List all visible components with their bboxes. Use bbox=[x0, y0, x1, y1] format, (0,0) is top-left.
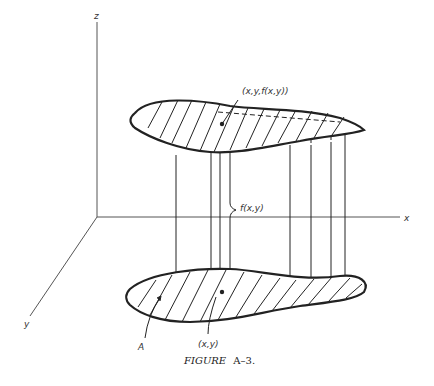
caption-number: A–3. bbox=[232, 355, 255, 366]
figure-caption: FIGURE A–3. bbox=[183, 355, 255, 366]
z-axis-label: z bbox=[93, 11, 99, 21]
surface-point-label: (x,y,f(x,y)) bbox=[242, 86, 288, 96]
region-label: A bbox=[137, 342, 144, 352]
base-point bbox=[220, 290, 224, 294]
figure-diagram: z x y bbox=[0, 0, 434, 386]
y-axis bbox=[30, 217, 97, 316]
lower-surface bbox=[126, 269, 365, 322]
base-point-label: (x,y) bbox=[198, 339, 219, 349]
caption-prefix: FIGURE bbox=[183, 355, 227, 366]
height-label: f(x,y) bbox=[240, 203, 264, 213]
x-axis-label: x bbox=[403, 213, 410, 223]
upper-surface bbox=[130, 100, 364, 152]
y-axis-label: y bbox=[23, 319, 30, 329]
height-line bbox=[222, 130, 236, 292]
